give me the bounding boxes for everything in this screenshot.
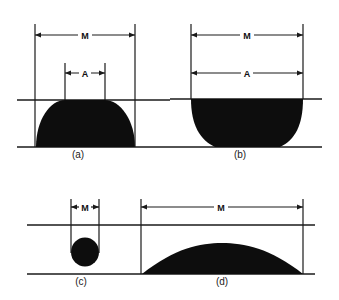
panel-caption: (a) [72, 149, 84, 160]
panel-a: M A (a) [17, 24, 170, 160]
deposit-shape [36, 100, 135, 147]
deposit-shape [142, 243, 303, 274]
panel-c: M (c) [27, 199, 141, 287]
m-label: M [81, 203, 89, 213]
diagram-canvas: M A (a) M A (b) M (c) [0, 0, 339, 300]
m-label: M [217, 203, 225, 213]
deposit-shape [191, 99, 303, 147]
a-label: A [244, 69, 251, 79]
panel-b: M A (b) [170, 24, 322, 160]
a-label: A [82, 69, 89, 79]
panel-caption: (d) [216, 276, 228, 287]
panel-caption: (b) [234, 149, 246, 160]
panel-caption: (c) [75, 276, 87, 287]
m-label: M [243, 31, 251, 41]
panel-d: M (d) [130, 199, 315, 287]
particle-shape [71, 238, 99, 267]
m-label: M [81, 31, 89, 41]
